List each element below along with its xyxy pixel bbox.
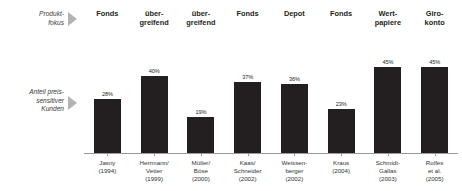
x-axis-tick (178, 153, 225, 156)
tick-mark (248, 153, 249, 156)
tick-mark (154, 153, 155, 156)
product-focus-cell: Fonds (84, 8, 131, 42)
bar (94, 99, 121, 153)
x-axis-tick (224, 153, 271, 156)
bar-value-label: 36% (289, 76, 300, 83)
bar (421, 67, 448, 153)
x-axis-tick (131, 153, 178, 156)
x-axis-category-labels: Jasny (1994)Herrmann/ Vetter (1999)Mülle… (84, 159, 458, 189)
bar-group: 45% (411, 48, 458, 153)
bar-value-label: 40% (149, 68, 160, 75)
bar-group: 28% (84, 48, 131, 153)
x-axis-label: Kraus (2004) (318, 159, 365, 189)
x-axis-ticks (84, 153, 458, 156)
arrow-right-icon-product-focus (68, 12, 77, 26)
arrow-right-icon-price-sensitive (68, 96, 77, 110)
bar-group: 23% (318, 48, 365, 153)
x-axis-tick (271, 153, 318, 156)
product-focus-cell: Fonds (318, 8, 365, 42)
tick-mark (294, 153, 295, 156)
product-focus-cell: Wert- papiere (365, 8, 412, 42)
bar-value-label: 45% (382, 59, 393, 66)
bar-value-label: 45% (429, 59, 440, 66)
row-label-price-sensitive-share: Anteil preis- sensitiver Kunden (2, 88, 64, 114)
bar-value-label: 23% (336, 101, 347, 108)
bar (187, 117, 214, 153)
bar-group: 19% (178, 48, 225, 153)
bar (328, 109, 355, 153)
bar (234, 82, 261, 153)
bar-series: 28%40%19%37%36%23%45%45% (84, 48, 458, 153)
x-axis-label: Jasny (1994) (84, 159, 131, 189)
x-axis-label: Müller/ Böse (2000) (178, 159, 225, 189)
tick-mark (435, 153, 436, 156)
bar (141, 76, 168, 153)
x-axis-tick (318, 153, 365, 156)
bar-group: 40% (131, 48, 178, 153)
x-axis-label: Schmidt- Gallas (2003) (365, 159, 412, 189)
x-axis-tick (84, 153, 131, 156)
bar-value-label: 19% (195, 109, 206, 116)
tick-mark (388, 153, 389, 156)
product-focus-cell: über- greifend (131, 8, 178, 42)
tick-mark (341, 153, 342, 156)
product-focus-cell: Depot (271, 8, 318, 42)
bar-value-label: 37% (242, 74, 253, 81)
bar (281, 84, 308, 153)
tick-mark (107, 153, 108, 156)
bar (374, 67, 401, 153)
bar-chart-plot-area: 28%40%19%37%36%23%45%45% (84, 48, 458, 153)
row-label-product-focus: Produkt- fokus (6, 10, 64, 27)
x-axis-label: Herrmann/ Vetter (1999) (131, 159, 178, 189)
bar-group: 45% (365, 48, 412, 153)
x-axis-tick (411, 153, 458, 156)
product-focus-cell: Giro- konto (411, 8, 458, 42)
x-axis-label: Weissen- berger (2002) (271, 159, 318, 189)
product-focus-header-row: Fondsüber- greifendüber- greifendFondsDe… (84, 8, 458, 42)
bar-group: 37% (224, 48, 271, 153)
x-axis-label: Rolfes et al. (2005) (411, 159, 458, 189)
x-axis-tick (365, 153, 412, 156)
x-axis-label: Kaas/ Schneider (2002) (224, 159, 271, 189)
bar-group: 36% (271, 48, 318, 153)
product-focus-cell: über- greifend (178, 8, 225, 42)
product-focus-cell: Fonds (224, 8, 271, 42)
tick-mark (201, 153, 202, 156)
bar-value-label: 28% (102, 91, 113, 98)
chart-figure: Produkt- fokus Anteil preis- sensitiver … (0, 0, 462, 191)
